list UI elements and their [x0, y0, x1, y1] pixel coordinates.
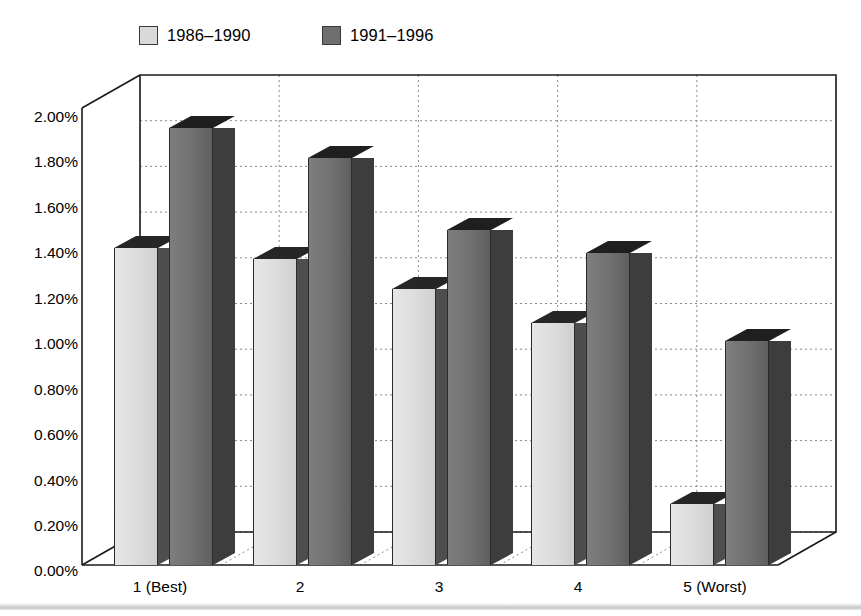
bar-side — [352, 158, 374, 565]
bar-side — [491, 230, 513, 565]
chart-screenshot: 1986–1990 1991–1996 — [0, 0, 861, 616]
scan-edge-gradient — [0, 603, 861, 610]
y-tick-2-00: 2.00% — [4, 109, 78, 124]
scan-bottom-edge — [0, 600, 861, 616]
y-tick-0-40: 0.40% — [4, 473, 78, 488]
bar-1991-1996-cat-2 — [308, 158, 352, 565]
bar-1986-1990-cat-1 — [114, 248, 158, 565]
bar-face — [725, 341, 769, 565]
chart-plot-area: 2.00% 1.80% 1.60% 1.40% 1.20% 1.00% 0.80… — [0, 0, 861, 616]
bar-face — [447, 230, 491, 565]
y-tick-1-40: 1.40% — [4, 245, 78, 260]
y-tick-0-20: 0.20% — [4, 518, 78, 533]
x-tick-5-worst: 5 (Worst) — [655, 578, 775, 596]
bar-side — [213, 128, 235, 565]
bar-side — [769, 341, 791, 565]
bar-face — [670, 504, 714, 565]
y-tick-0-60: 0.60% — [4, 427, 78, 442]
bar-1991-1996-cat-5 — [725, 341, 769, 565]
y-tick-1-60: 1.60% — [4, 200, 78, 215]
bar-1986-1990-cat-4 — [531, 323, 575, 565]
bar-face — [114, 248, 158, 565]
bar-1991-1996-cat-4 — [586, 253, 630, 565]
x-tick-4: 4 — [518, 578, 638, 596]
y-axis-tick-labels: 2.00% 1.80% 1.60% 1.40% 1.20% 1.00% 0.80… — [0, 0, 78, 616]
bar-face — [308, 158, 352, 565]
bar-1986-1990-cat-3 — [392, 289, 436, 565]
x-tick-1-best: 1 (Best) — [100, 578, 220, 596]
y-tick-1-80: 1.80% — [4, 154, 78, 169]
y-tick-1-00: 1.00% — [4, 336, 78, 351]
bar-side — [630, 253, 652, 565]
y-tick-1-20: 1.20% — [4, 291, 78, 306]
y-tick-0-00: 0.00% — [4, 563, 78, 578]
bar-face — [253, 259, 297, 565]
bar-1991-1996-cat-1 — [169, 128, 213, 565]
bar-face — [586, 253, 630, 565]
bar-1991-1996-cat-3 — [447, 230, 491, 565]
bar-1986-1990-cat-5 — [670, 504, 714, 565]
y-tick-0-80: 0.80% — [4, 382, 78, 397]
bar-face — [169, 128, 213, 565]
bar-face — [392, 289, 436, 565]
x-tick-2: 2 — [240, 578, 360, 596]
bar-face — [531, 323, 575, 565]
bar-1986-1990-cat-2 — [253, 259, 297, 565]
x-tick-3: 3 — [379, 578, 499, 596]
